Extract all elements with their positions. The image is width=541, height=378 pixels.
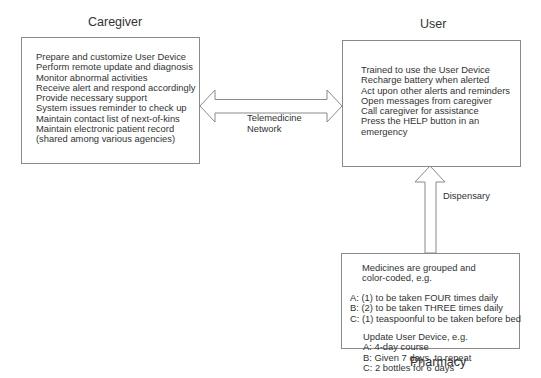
list-item: emergency [361,127,510,137]
telemedicine-network-label: Telemedicine Network [247,113,302,134]
caregiver-title: Caregiver [88,15,142,29]
user-responsibilities: Trained to use the User Device Recharge … [361,65,510,137]
pharmacy-title: Pharmacy [410,355,466,369]
caregiver-responsibilities: Prepare and customize User Device Perfor… [36,52,195,145]
dispensary-up-arrow [415,166,445,253]
user-title: User [420,17,446,31]
pharmacy-medicine-list: A: (1) to be taken FOUR times daily B: (… [350,293,521,324]
dispensary-label: Dispensary [443,191,490,202]
caregiver-box: Prepare and customize User Device Perfor… [21,37,200,164]
list-item: C: (1) teaspoonful to be taken before be… [350,314,521,324]
user-box: Trained to use the User Device Recharge … [342,40,521,167]
list-item: (shared among various agencies) [36,134,195,144]
pharmacy-box: Medicines are grouped and color-coded, e… [341,253,520,349]
pharmacy-intro: Medicines are grouped and color-coded, e… [362,263,476,284]
